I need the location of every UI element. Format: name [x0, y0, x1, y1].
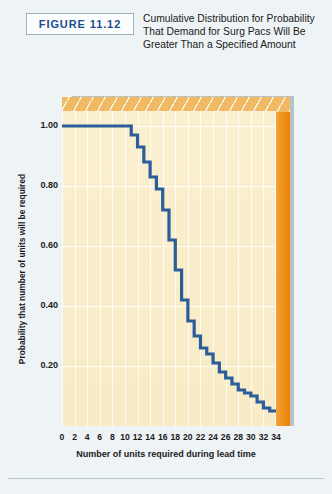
cumulative-distribution-step-curve: [62, 111, 276, 426]
figure-page: FIGURE 11.12 Cumulative Distribution for…: [0, 0, 332, 494]
x-axis-title: Number of units required during lead tim…: [0, 449, 332, 459]
plot-right-face-3d: [276, 104, 290, 426]
plot-top-face-3d: [62, 97, 290, 112]
y-axis-title-wrap: Probability that number of units will be…: [14, 111, 30, 426]
x-axis-tick-labels: 0246810121416182022242628303234: [62, 432, 290, 446]
chart-figure: 0.200.400.600.801.00 Probability that nu…: [0, 0, 332, 494]
x-axis-tick-label: 34: [266, 432, 286, 442]
plot-area: [62, 111, 276, 426]
page-divider-rule: [8, 478, 324, 479]
y-axis-title: Probability that number of units will be…: [17, 173, 27, 363]
